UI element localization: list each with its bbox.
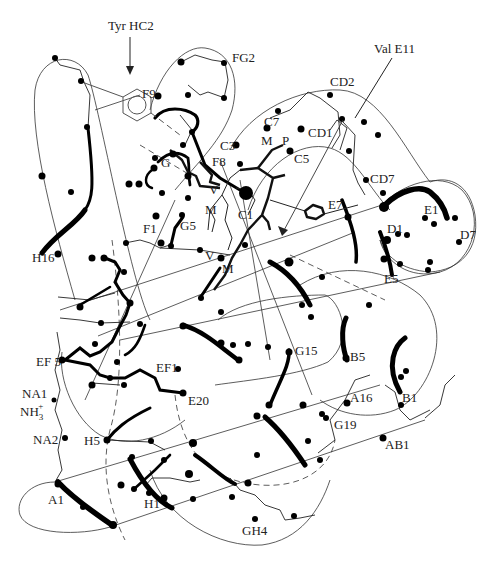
label-cd2: CD2 [330,74,355,89]
label-nh3: NH3+ [20,401,44,422]
label-p: P [282,133,289,148]
label-e5: E5 [384,271,398,286]
label-a1: A1 [48,492,64,507]
label-c7: C7 [264,114,280,129]
label-fg2: FG2 [232,50,255,65]
label-na2: NA2 [33,432,58,447]
connector-line-2 [220,160,312,395]
a-helix-band-upper [55,385,380,482]
label-cd7: CD7 [370,171,395,186]
heme-group [170,145,358,290]
label-val-e11: Val E11 [374,41,415,56]
label-e20: E20 [188,393,209,408]
h-helix-lower-envelope [150,470,330,545]
label-e1: E1 [424,202,438,217]
dashed-path-2 [175,395,335,485]
label-na1: NA1 [22,386,47,401]
label-ef1: EF1 [156,360,178,375]
label-ef5: EF 5 [36,354,61,369]
label-g19: G19 [334,417,356,432]
e-helix-inner-envelope [248,147,390,210]
label-m-top: M [261,133,273,148]
label-cd1: CD1 [308,125,333,140]
label-b5: B5 [350,349,365,364]
globin-fold-diagram: Tyr HC2 Val E11 FG2 F9 CD2 C7 CD1 C3 M P… [0,0,497,565]
label-ab1: AB1 [385,437,410,452]
residue-labels: Tyr HC2 Val E11 FG2 F9 CD2 C7 CD1 C3 M P… [20,18,476,538]
label-d1: D1 [387,221,403,236]
label-a16: A16 [350,390,373,405]
his-ring-e7 [305,205,324,219]
heme-iron [239,186,253,200]
label-f1: F1 [143,221,157,236]
label-f8: F8 [212,154,226,169]
label-d7: D7 [460,227,476,242]
label-c5: C5 [294,151,309,166]
label-m-low: M [222,261,234,276]
label-g: G [161,155,170,170]
label-h1: H1 [144,496,160,511]
g-helix-envelope [215,295,343,385]
label-m-mid: M [205,202,217,217]
label-c1: C1 [238,207,253,222]
label-tyr-hc2: Tyr HC2 [108,18,154,33]
label-h5: H5 [84,433,100,448]
label-e7: E7 [328,197,343,212]
label-v-low: V [205,248,215,263]
label-b1: B1 [402,390,417,405]
helix-envelopes [19,48,476,545]
label-g15: G15 [295,343,317,358]
label-gh4: GH4 [242,523,268,538]
g-helix-band-upper [98,232,355,336]
label-h16: H16 [32,250,55,265]
label-f9: F9 [142,86,156,101]
label-g5: G5 [180,218,196,233]
label-c3: C3 [220,138,235,153]
label-v-top: V [209,182,219,197]
